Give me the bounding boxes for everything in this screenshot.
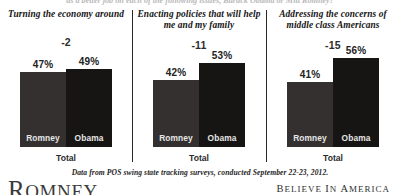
panel-margin-value: -2 xyxy=(0,36,132,48)
campaign-logo-text: ROMNEY xyxy=(8,180,98,195)
panel-plot: 47% Romney 49% Obama xyxy=(0,51,132,147)
bar-wrap-romney: 41% Romney xyxy=(287,51,333,147)
axis-label-total: Total xyxy=(266,153,400,163)
bar-wrap-romney: 42% Romney xyxy=(153,51,199,147)
bar-value-romney: 41% xyxy=(287,69,333,80)
chart-panel-economy: Turning the economy around -2 47% Romney… xyxy=(0,9,132,169)
panel-plot: 42% Romney 53% Obama xyxy=(132,51,266,147)
survey-question-text: as a better job on each of the following… xyxy=(0,0,400,5)
bar-wrap-obama: 49% Obama xyxy=(66,51,112,147)
chart-panels: Turning the economy around -2 47% Romney… xyxy=(0,9,400,169)
campaign-slogan: BELIEVE IN AMERICA xyxy=(276,183,390,194)
panel-plot: 41% Romney 56% Obama xyxy=(266,51,400,147)
bar-value-obama: 56% xyxy=(333,45,379,56)
bar-label-obama: Obama xyxy=(66,133,112,143)
chart-panel-policies: Enacting policies that will help me and … xyxy=(132,9,266,169)
bar-romney: 47% Romney xyxy=(20,72,66,147)
bar-romney: 41% Romney xyxy=(287,82,333,147)
bar-value-romney: 47% xyxy=(20,59,66,70)
chart-panel-middle-class: Addressing the concerns of middle class … xyxy=(266,9,400,169)
bar-label-obama: Obama xyxy=(199,133,245,143)
bar-obama: 53% Obama xyxy=(199,63,245,147)
panel-title: Enacting policies that will help me and … xyxy=(132,9,266,31)
bar-value-obama: 53% xyxy=(199,50,245,61)
bar-obama: 49% Obama xyxy=(66,69,112,147)
bar-group: 41% Romney 56% Obama xyxy=(266,51,400,147)
axis-label-total: Total xyxy=(0,153,132,163)
bar-value-romney: 42% xyxy=(153,67,199,78)
survey-question-strip: as a better job on each of the following… xyxy=(0,0,400,9)
bar-label-romney: Romney xyxy=(153,133,199,143)
bar-label-obama: Obama xyxy=(333,133,379,143)
bar-value-obama: 49% xyxy=(66,56,112,67)
axis-label-total: Total xyxy=(132,153,266,163)
bar-wrap-obama: 56% Obama xyxy=(333,51,379,147)
bar-group: 42% Romney 53% Obama xyxy=(132,51,266,147)
bar-wrap-romney: 47% Romney xyxy=(20,51,66,147)
panel-title: Turning the economy around xyxy=(0,9,132,20)
bar-label-romney: Romney xyxy=(287,133,333,143)
campaign-logo: ROMNEY xyxy=(8,180,98,195)
source-note: Data from POS swing state tracking surve… xyxy=(0,168,400,177)
bar-obama: 56% Obama xyxy=(333,58,379,147)
bar-wrap-obama: 53% Obama xyxy=(199,51,245,147)
bar-label-romney: Romney xyxy=(20,133,66,143)
bar-group: 47% Romney 49% Obama xyxy=(0,51,132,147)
bar-romney: 42% Romney xyxy=(153,80,199,147)
panel-title: Addressing the concerns of middle class … xyxy=(266,9,400,31)
